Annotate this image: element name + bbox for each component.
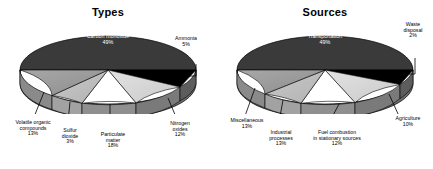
callout-ammonia-pct: 5%	[160, 42, 212, 48]
callout-miscellaneous-pct: 13%	[219, 124, 275, 130]
callout-ammonia: Ammonia 5%	[160, 36, 212, 47]
callout-waste-disposal-pct: 2%	[390, 33, 433, 39]
chart-title-sources: Sources	[217, 6, 433, 18]
callout-voc: Volatile organic compounds 13%	[2, 120, 64, 137]
slice-label-carbon-monoxide-pct: 49%	[50, 40, 166, 46]
callout-nitrogen-oxides: Nitrogen oxides 12%	[155, 121, 205, 138]
callout-sulfur-dioxide-pct: 3%	[48, 139, 92, 145]
callout-agriculture: Agriculture 10%	[381, 116, 433, 127]
callout-waste-disposal: Waste disposal 2%	[390, 22, 433, 39]
chart-title-types: Types	[0, 6, 216, 18]
callout-miscellaneous: Miscellaneous 13%	[219, 118, 275, 129]
callout-nitrogen-oxides-pct: 12%	[155, 132, 205, 138]
callout-agriculture-pct: 10%	[381, 122, 433, 128]
callout-industrial-processes: Industrial processes 13%	[255, 130, 307, 147]
slice-label-transportation-pct: 49%	[269, 40, 381, 46]
callout-industrial-processes-pct: 13%	[255, 141, 307, 147]
callout-fuel-combustion: Fuel combustion in stationary sources 12…	[297, 130, 377, 147]
slice-label-carbon-monoxide: Carbon monoxide 49%	[50, 34, 166, 45]
figure-root: Types	[0, 0, 433, 169]
chart-panel-sources: Sources	[217, 0, 433, 169]
chart-panel-types: Types	[0, 0, 216, 169]
callout-fuel-combustion-pct: 12%	[297, 141, 377, 147]
callout-particulate-matter: Particulate matter 18%	[87, 132, 139, 149]
callout-particulate-matter-pct: 18%	[87, 143, 139, 149]
callout-voc-pct: 13%	[2, 131, 64, 137]
slice-label-transportation: Transportation 49%	[269, 34, 381, 45]
